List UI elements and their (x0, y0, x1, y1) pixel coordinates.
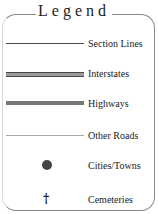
city-dot-icon (42, 160, 52, 170)
cemetery-cross-icon: † (43, 193, 49, 205)
legend-label: Section Lines (88, 38, 143, 49)
section-line-symbol (6, 43, 84, 44)
other-road-line-symbol (6, 135, 84, 136)
legend-label: Cemeteries (88, 194, 133, 205)
legend-item-cities-towns: Cities/Towns (0, 155, 158, 175)
legend-label: Other Roads (88, 130, 138, 141)
legend-label: Cities/Towns (88, 160, 141, 171)
legend-item-highways: Highways (0, 93, 158, 113)
legend-item-interstates: Interstates (0, 63, 158, 83)
highway-line-symbol (6, 101, 84, 105)
legend-item-other-roads: Other Roads (0, 125, 158, 145)
legend-item-section-lines: Section Lines (0, 33, 158, 53)
interstate-line-symbol (6, 72, 84, 77)
legend-item-cemeteries: † Cemeteries (0, 189, 158, 209)
legend-label: Interstates (88, 68, 129, 79)
legend-label: Highways (88, 98, 129, 109)
legend-title: Legend (36, 2, 112, 20)
